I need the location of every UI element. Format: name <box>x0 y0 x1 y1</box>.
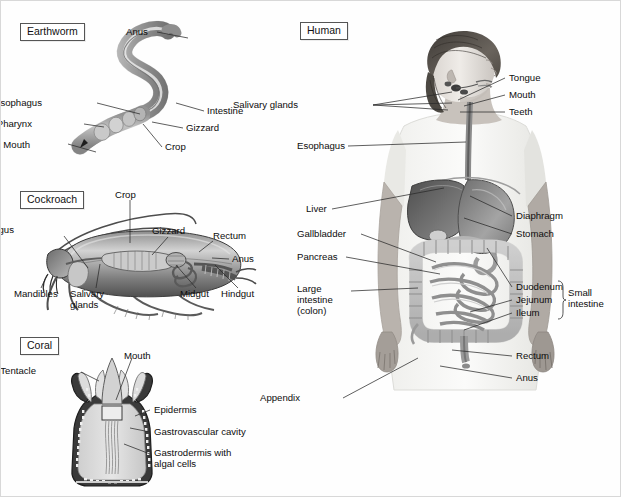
label-earthworm-crop: Crop <box>165 141 186 152</box>
figure-canvas: Earthworm Cockroach Coral Human Anus Eso… <box>0 0 621 497</box>
label-cockroach-hindgut: Hindgut <box>221 288 254 299</box>
label-human-jejunum: Jejunum <box>516 294 552 305</box>
label-earthworm-pharynx: Pharynx <box>0 118 32 129</box>
label-human-small-line2: intestine <box>568 298 604 309</box>
panel-tag-coral: Coral <box>20 337 59 355</box>
label-cockroach-esophagus: Esophagus <box>0 224 14 235</box>
label-human-small-line1: Small <box>568 287 592 298</box>
label-earthworm-esophagus: Esophagus <box>0 97 42 108</box>
label-coral-gastrovascular-cavity: Gastrovascular cavity <box>154 426 246 437</box>
label-coral-gastrodermis-line2: algal cells <box>154 458 196 469</box>
panel-tag-human: Human <box>300 22 348 40</box>
label-human-mouth: Mouth <box>509 89 536 100</box>
label-cockroach-gizzard: Gizzard <box>152 225 185 236</box>
label-coral-tentacle: Tentacle <box>0 365 36 376</box>
label-human-appendix: Appendix <box>260 392 300 403</box>
label-human-large-line2: intestine <box>297 294 333 305</box>
label-human-anus: Anus <box>516 372 538 383</box>
label-human-stomach: Stomach <box>516 228 554 239</box>
label-cockroach-salivary-line1: Salivary <box>70 288 104 299</box>
label-cockroach-anus: Anus <box>232 253 254 264</box>
label-earthworm-mouth: Mouth <box>3 139 30 150</box>
panel-tag-cockroach: Cockroach <box>20 191 84 209</box>
panel-tag-earthworm: Earthworm <box>20 23 85 41</box>
label-coral-epidermis: Epidermis <box>154 404 197 415</box>
label-earthworm-gizzard: Gizzard <box>186 122 219 133</box>
label-cockroach-salivary-line2: glands <box>70 299 98 310</box>
label-human-large-intestine: Large intestine (colon) <box>297 284 353 316</box>
label-human-small-intestine: Small intestine <box>568 288 616 310</box>
label-cockroach-rectum: Rectum <box>213 230 246 241</box>
label-coral-mouth: Mouth <box>124 350 151 361</box>
label-human-ileum: Ileum <box>516 307 539 318</box>
label-human-duodenum: Duodenum <box>516 281 563 292</box>
label-earthworm-anus: Anus <box>126 26 148 37</box>
label-cockroach-salivary-glands: Salivary glands <box>70 288 104 310</box>
label-coral-gastrodermis: Gastrodermis with algal cells <box>154 448 274 470</box>
label-human-teeth: Teeth <box>509 106 532 117</box>
label-human-liver: Liver <box>306 203 327 214</box>
label-human-gallbladder: Gallbladder <box>297 228 346 239</box>
label-cockroach-mandibles: Mandibles <box>14 288 58 299</box>
label-cockroach-crop: Crop <box>115 189 136 200</box>
label-cockroach-midgut: Midgut <box>180 288 209 299</box>
label-human-large-line3: (colon) <box>297 305 326 316</box>
label-human-pancreas: Pancreas <box>297 251 338 262</box>
label-human-salivary-glands: Salivary glands <box>233 99 298 110</box>
label-coral-gastrodermis-line1: Gastrodermis with <box>154 447 231 458</box>
label-human-esophagus: Esophagus <box>297 140 345 151</box>
label-human-rectum: Rectum <box>516 350 549 361</box>
label-human-tongue: Tongue <box>509 72 540 83</box>
label-human-large-line1: Large <box>297 283 322 294</box>
label-human-diaphragm: Diaphragm <box>516 210 563 221</box>
